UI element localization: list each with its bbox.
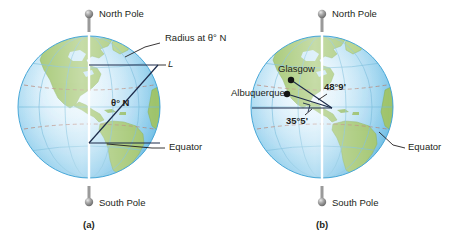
label-angle-albuquerque: 35°5': [286, 116, 308, 126]
label-north-pole-b: North Pole: [332, 9, 377, 19]
south-pole-pin-a: [85, 186, 93, 206]
label-radius-at-theta-a: Radius at θ° N: [165, 33, 226, 43]
label-equator-a: Equator: [169, 142, 202, 152]
label-arc-length-a: L: [168, 59, 173, 69]
caption-panel-a: (a): [83, 219, 95, 230]
label-city-glasgow: Glasgow: [278, 64, 315, 74]
globe-a: [18, 10, 166, 206]
label-north-pole-a: North Pole: [99, 9, 144, 19]
label-south-pole-a: South Pole: [99, 198, 145, 208]
label-theta-angle-a: θ° N: [111, 98, 129, 108]
label-city-albuquerque: Albuquerque: [231, 88, 285, 98]
caption-panel-b: (b): [316, 219, 328, 230]
label-equator-b: Equator: [408, 142, 441, 152]
globe-b: [251, 10, 405, 206]
city-dot-glasgow: [288, 77, 294, 83]
label-angle-glasgow: 48°9': [324, 82, 346, 92]
label-south-pole-b: South Pole: [332, 198, 378, 208]
north-pole-pin-a: [85, 10, 93, 32]
latitude-globes-figure: North Pole South Pole Radius at θ° N L θ…: [0, 0, 460, 237]
north-pole-pin-b: [318, 10, 326, 32]
figure-canvas: [0, 0, 460, 237]
south-pole-pin-b: [318, 186, 326, 206]
